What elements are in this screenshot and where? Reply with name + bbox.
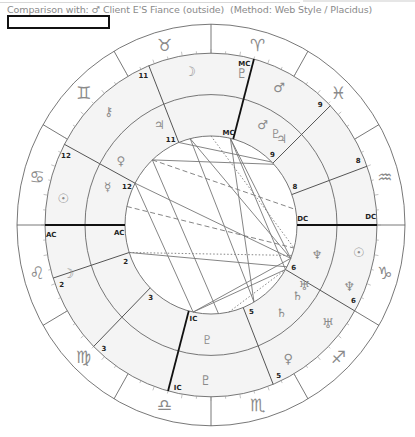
- inner-house-label: IC: [190, 315, 198, 323]
- zodiac-sagittarius-icon: ♐: [331, 347, 346, 367]
- inner-house-label: DC: [297, 215, 308, 223]
- inner-house-label: MC: [222, 129, 234, 137]
- inner-house-label: 11: [166, 136, 176, 144]
- zodiac-libra-icon: ♎: [157, 395, 172, 415]
- zodiac-pisces-icon: ♓: [331, 83, 346, 103]
- aspect-circle: [125, 136, 297, 314]
- inner-house-label: 3: [148, 294, 153, 302]
- outer-house-label: 8: [356, 157, 361, 165]
- outer-house-label: 9: [318, 101, 323, 109]
- zodiac-taurus-icon: ♉: [157, 35, 172, 55]
- bi-wheel-chart: ♒♓♈♉♊♋♌♍♎♏♐♑AC23IC56DC89MC1112AC23IC56DC…: [0, 0, 415, 437]
- outer-planet-moon-icon: ☽: [184, 64, 196, 79]
- outer-house-label: 12: [61, 152, 71, 160]
- zodiac-aries-icon: ♈: [250, 35, 265, 55]
- inner-house-label: AC: [114, 229, 125, 237]
- zodiac-virgo-icon: ♍: [76, 347, 91, 367]
- zodiac-capricorn-icon: ♑: [377, 263, 392, 283]
- outer-planet-uranus-icon: ♅: [322, 316, 334, 331]
- outer-planet-neptune-icon: ♆: [343, 279, 355, 294]
- inner-house-label: 9: [270, 151, 275, 159]
- inner-house-label: 5: [249, 308, 254, 316]
- zodiac-aquarius-icon: ♒: [377, 167, 392, 187]
- inner-planet-saturn-icon: ♄: [292, 289, 303, 303]
- outer-planet-pluto-icon: ♇: [236, 66, 248, 81]
- outer-planet-chiron-icon: ⚷: [104, 104, 114, 119]
- outer-house-label: 11: [139, 72, 149, 80]
- inner-planet-pluto2-icon: ♇: [202, 333, 213, 347]
- outer-planet-venus-icon: ♀: [283, 351, 293, 366]
- zodiac-cancer-icon: ♋: [30, 167, 45, 187]
- inner-planet-neptune-icon: ♆: [312, 248, 323, 262]
- inner-planet-venus-icon: ♀: [116, 154, 125, 168]
- outer-house-label: AC: [46, 231, 57, 239]
- inner-house-label: 12: [122, 183, 132, 191]
- inner-house-label: 2: [123, 258, 128, 266]
- outer-house-label: 6: [351, 297, 356, 305]
- inner-planet-mercury-icon: ☿: [104, 180, 111, 194]
- outer-house-label: IC: [174, 384, 182, 392]
- inner-house-label: 8: [293, 183, 298, 191]
- zodiac-scorpio-icon: ♏: [250, 395, 265, 415]
- outer-house-label: 5: [276, 372, 281, 380]
- outer-house-label: 2: [59, 281, 64, 289]
- outer-house-label: 3: [102, 345, 107, 353]
- inner-planet-jupiter-icon: ♃: [154, 118, 165, 132]
- inner-planet-saturn2-icon: ♄: [276, 306, 287, 320]
- outer-planet-moon2-icon: ☽: [63, 266, 75, 281]
- outer-planet-sun2-icon: ☉: [353, 245, 365, 260]
- outer-planet-sun-icon: ☉: [57, 191, 69, 206]
- inner-planet-pluto-icon: ♇: [270, 127, 281, 141]
- zodiac-leo-icon: ♌: [30, 263, 45, 283]
- outer-planet-mars-icon: ♂: [273, 80, 285, 95]
- inner-planet-mars-icon: ♂: [257, 118, 268, 132]
- inner-house-label: 6: [291, 264, 296, 272]
- outer-planet-pluto2-icon: ♇: [200, 373, 212, 388]
- outer-house-label: DC: [365, 213, 376, 221]
- zodiac-gemini-icon: ♊: [76, 83, 91, 103]
